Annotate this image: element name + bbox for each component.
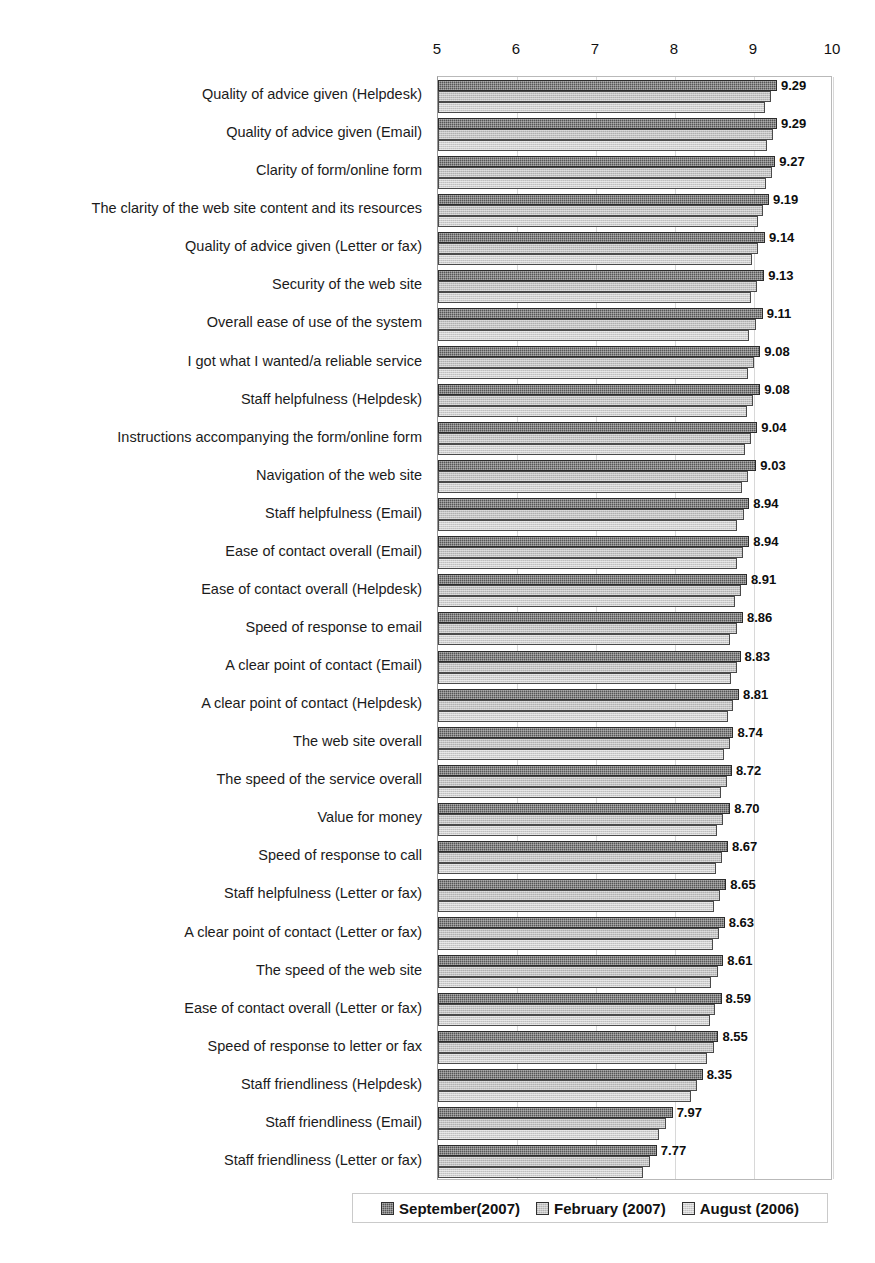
bar-value-label: 8.70 [734, 803, 759, 814]
bar-0 [438, 765, 732, 776]
bar-group: 8.65 [438, 876, 831, 914]
bar-2 [438, 749, 724, 760]
category-label: The web site overall [293, 734, 422, 749]
category-label: The speed of the service overall [216, 772, 422, 787]
bar-value-label: 8.86 [747, 612, 772, 623]
category-label: Navigation of the web site [256, 468, 422, 483]
bar-value-label: 8.67 [732, 841, 757, 852]
bar-group: 9.13 [438, 267, 831, 305]
gridline-10 [833, 77, 834, 1179]
bar-0 [438, 308, 763, 319]
bar-2 [438, 787, 721, 798]
legend-entry-2[interactable]: August (2006) [682, 1200, 799, 1217]
bar-value-label: 9.04 [761, 422, 786, 433]
plot-area: 9.299.299.279.199.149.139.119.089.089.04… [437, 76, 832, 1180]
bar-group: 9.11 [438, 305, 831, 343]
bar-1 [438, 928, 719, 939]
chart-legend: September(2007)February (2007)August (20… [352, 1193, 828, 1223]
bar-group: 8.94 [438, 496, 831, 534]
bar-1 [438, 700, 733, 711]
bar-1 [438, 547, 743, 558]
bar-group: 9.29 [438, 115, 831, 153]
legend-entry-0[interactable]: September(2007) [381, 1200, 520, 1217]
bar-1 [438, 776, 727, 787]
bar-group: 8.63 [438, 915, 831, 953]
legend-label: August (2006) [700, 1200, 799, 1217]
bar-value-label: 9.14 [769, 232, 794, 243]
bar-0 [438, 841, 728, 852]
bar-value-label: 9.08 [764, 384, 789, 395]
bar-value-label: 8.63 [729, 917, 754, 928]
bar-2 [438, 1015, 710, 1026]
bar-2 [438, 102, 765, 113]
bar-group: 9.19 [438, 191, 831, 229]
legend-swatch-icon [536, 1202, 549, 1215]
bar-2 [438, 711, 728, 722]
bar-2 [438, 178, 766, 189]
bar-1 [438, 319, 756, 330]
bar-1 [438, 281, 757, 292]
bar-1 [438, 966, 718, 977]
bar-value-label: 8.35 [707, 1069, 732, 1080]
category-label: Staff friendliness (Letter or fax) [224, 1153, 422, 1168]
bar-2 [438, 901, 714, 912]
bar-value-label: 9.29 [781, 118, 806, 129]
x-axis-tick-6: 6 [512, 40, 520, 57]
bar-2 [438, 863, 716, 874]
bar-2 [438, 1091, 691, 1102]
bar-1 [438, 395, 753, 406]
category-label: Security of the web site [272, 277, 422, 292]
bar-0 [438, 803, 730, 814]
bar-value-label: 9.29 [781, 80, 806, 91]
legend-entry-1[interactable]: February (2007) [536, 1200, 666, 1217]
x-axis-tick-10: 10 [824, 40, 841, 57]
bar-group: 8.83 [438, 648, 831, 686]
category-label: A clear point of contact (Helpdesk) [201, 696, 422, 711]
bar-group: 9.27 [438, 153, 831, 191]
bar-group: 8.61 [438, 953, 831, 991]
bar-group: 8.72 [438, 762, 831, 800]
category-label: Value for money [317, 810, 422, 825]
bar-1 [438, 167, 772, 178]
legend-swatch-icon [381, 1202, 394, 1215]
category-axis-labels: Quality of advice given (Helpdesk)Qualit… [0, 76, 430, 1180]
bar-0 [438, 194, 769, 205]
bar-value-label: 8.65 [730, 879, 755, 890]
bar-group: 9.08 [438, 382, 831, 420]
bar-1 [438, 471, 748, 482]
bar-value-label: 8.74 [737, 727, 762, 738]
bar-0 [438, 270, 764, 281]
bar-group: 8.67 [438, 838, 831, 876]
bar-2 [438, 520, 737, 531]
bar-value-label: 9.03 [760, 460, 785, 471]
bar-0 [438, 460, 756, 471]
bar-0 [438, 156, 775, 167]
bar-group: 9.14 [438, 229, 831, 267]
bar-2 [438, 1053, 707, 1064]
bar-2 [438, 825, 717, 836]
bar-2 [438, 368, 748, 379]
bar-value-label: 9.11 [767, 308, 792, 319]
bar-1 [438, 585, 741, 596]
bar-2 [438, 292, 751, 303]
bar-0 [438, 955, 723, 966]
bar-value-label: 7.77 [661, 1145, 686, 1156]
bar-value-label: 8.61 [727, 955, 752, 966]
bar-0 [438, 879, 726, 890]
bar-1 [438, 1004, 715, 1015]
bar-0 [438, 993, 722, 1004]
bar-1 [438, 1156, 650, 1167]
bar-value-label: 8.72 [736, 765, 761, 776]
bar-value-label: 9.27 [779, 156, 804, 167]
bar-value-label: 8.94 [753, 498, 778, 509]
bar-2 [438, 596, 735, 607]
bar-1 [438, 890, 720, 901]
bar-1 [438, 738, 730, 749]
category-label: Ease of contact overall (Letter or fax) [184, 1001, 422, 1016]
bar-group: 8.35 [438, 1067, 831, 1105]
category-label: Speed of response to call [258, 848, 422, 863]
legend-label: February (2007) [554, 1200, 666, 1217]
category-label: Overall ease of use of the system [207, 315, 422, 330]
bar-2 [438, 977, 711, 988]
category-label: Staff helpfulness (Helpdesk) [241, 392, 422, 407]
